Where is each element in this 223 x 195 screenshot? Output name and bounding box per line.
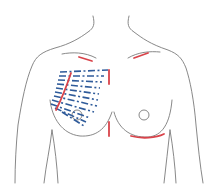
direction-lines: [51, 70, 108, 126]
right-clavicle-mark: [134, 53, 148, 58]
torso-diagram: [0, 0, 223, 195]
left-clavicle-mark: [79, 57, 92, 61]
torso-outline: [15, 16, 203, 183]
left-breast: [50, 100, 112, 136]
right-breast: [114, 100, 172, 137]
right-nipple-icon: [139, 110, 149, 120]
